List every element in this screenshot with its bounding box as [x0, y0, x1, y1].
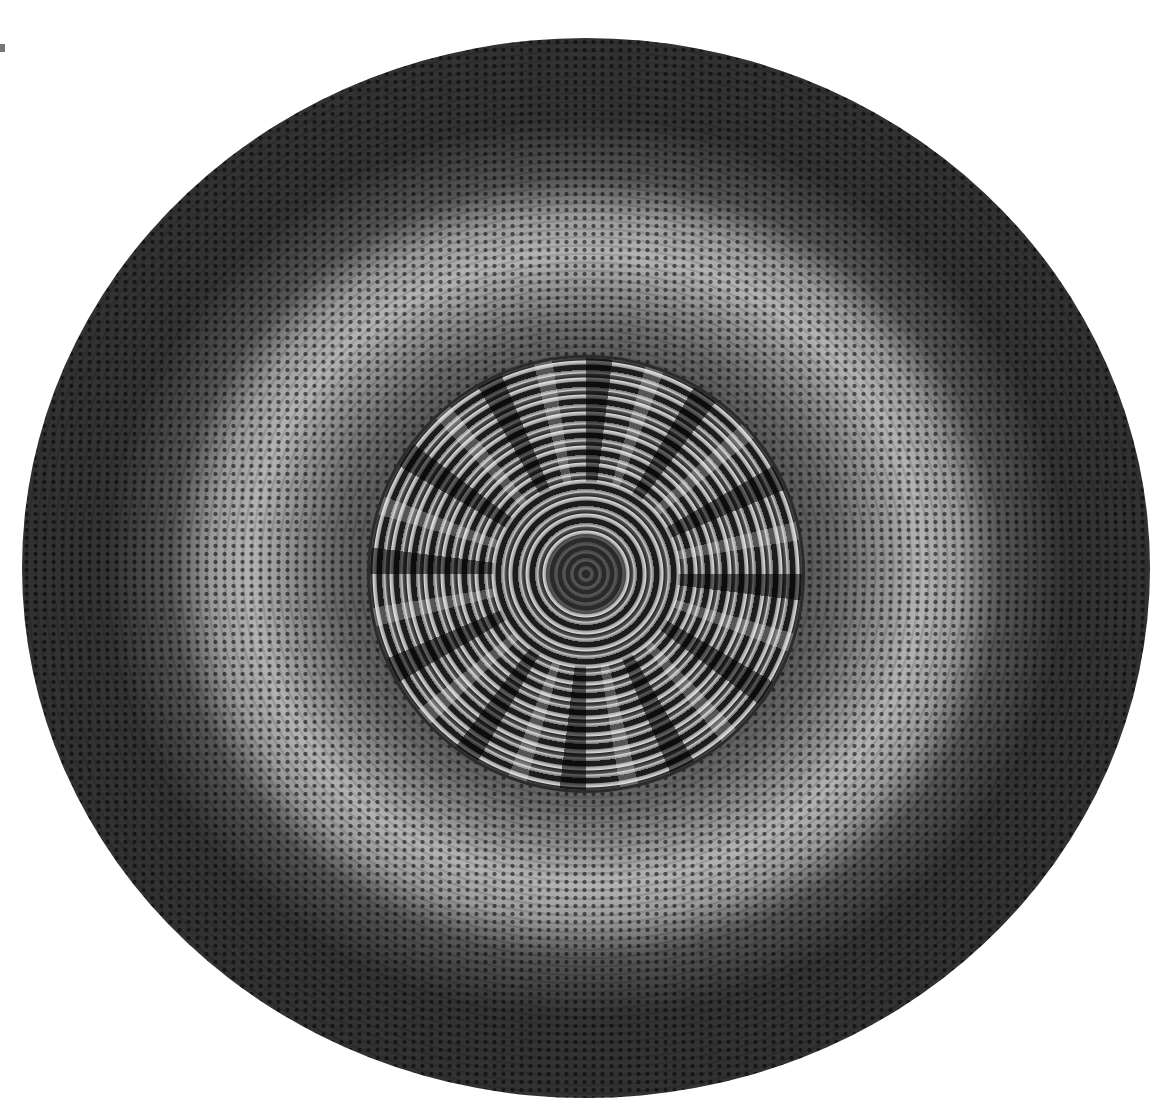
edge-mark: [0, 44, 5, 52]
rug-center-medallion: [370, 358, 802, 790]
medallion-core: [546, 534, 626, 614]
braided-rug: [22, 38, 1150, 1098]
